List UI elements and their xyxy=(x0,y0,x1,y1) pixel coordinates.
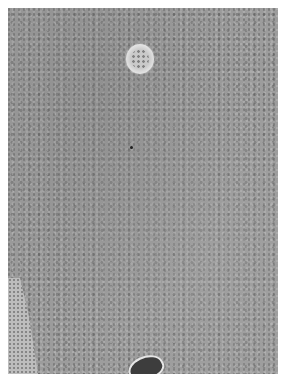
pale-round-structure xyxy=(126,44,154,74)
micrograph-image xyxy=(8,8,278,374)
dark-dot xyxy=(130,146,133,149)
